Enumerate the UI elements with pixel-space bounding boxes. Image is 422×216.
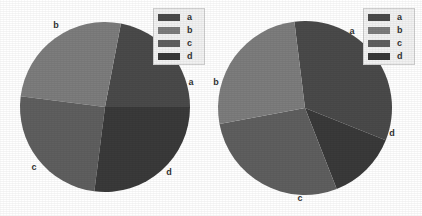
legend-row-c[interactable]: c bbox=[158, 38, 200, 48]
legend-row-d[interactable]: d bbox=[158, 51, 200, 61]
legend-label-d: d bbox=[397, 52, 403, 61]
legend-swatch-b bbox=[158, 27, 180, 34]
legend-label-a: a bbox=[397, 13, 402, 22]
pie-chart-panel-left: abcd abcd bbox=[0, 0, 211, 216]
pie-slice-d[interactable] bbox=[94, 107, 190, 192]
legend-label-b: b bbox=[187, 26, 193, 35]
pie-slice-c[interactable] bbox=[20, 96, 105, 191]
pie-slice-label-d: d bbox=[389, 129, 395, 138]
pie-slice-label-b: b bbox=[213, 78, 219, 87]
legend-swatch-c bbox=[368, 40, 390, 47]
legend-swatch-c bbox=[158, 40, 180, 47]
legend-label-a: a bbox=[187, 13, 192, 22]
legend-swatch-b bbox=[368, 27, 390, 34]
pie-slice-b[interactable] bbox=[218, 22, 305, 124]
legend-row-c[interactable]: c bbox=[368, 38, 410, 48]
pie-chart-panel-right: adcb abcd bbox=[211, 0, 422, 216]
legend-label-c: c bbox=[397, 39, 402, 48]
legend-row-a[interactable]: a bbox=[158, 12, 200, 22]
legend-row-a[interactable]: a bbox=[368, 12, 410, 22]
legend-right[interactable]: abcd bbox=[363, 8, 415, 65]
pie-slice-b[interactable] bbox=[21, 22, 121, 107]
legend-swatch-a bbox=[368, 14, 390, 21]
pie-slice-label-a: a bbox=[349, 27, 354, 36]
legend-swatch-a bbox=[158, 14, 180, 21]
pie-slice-label-c: c bbox=[31, 163, 36, 172]
pie-slice-label-d: d bbox=[166, 168, 172, 177]
legend-row-b[interactable]: b bbox=[368, 25, 410, 35]
figure-canvas: abcd abcd adcb abcd bbox=[0, 0, 422, 216]
legend-label-b: b bbox=[397, 26, 403, 35]
pie-slice-label-a: a bbox=[188, 78, 193, 87]
legend-label-c: c bbox=[187, 39, 192, 48]
legend-swatch-d bbox=[158, 53, 180, 60]
pie-slice-label-b: b bbox=[53, 21, 59, 30]
legend-label-d: d bbox=[187, 52, 193, 61]
pie-slice-label-c: c bbox=[297, 194, 302, 203]
legend-swatch-d bbox=[368, 53, 390, 60]
legend-row-b[interactable]: b bbox=[158, 25, 200, 35]
legend-row-d[interactable]: d bbox=[368, 51, 410, 61]
legend-left[interactable]: abcd bbox=[153, 8, 205, 65]
